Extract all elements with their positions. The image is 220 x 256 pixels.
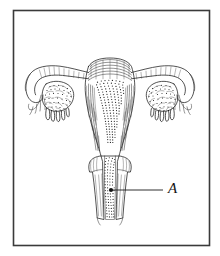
anatomy-figure: A: [0, 0, 220, 256]
figure-container: A: [0, 0, 220, 256]
label-a-text: A: [167, 180, 178, 196]
